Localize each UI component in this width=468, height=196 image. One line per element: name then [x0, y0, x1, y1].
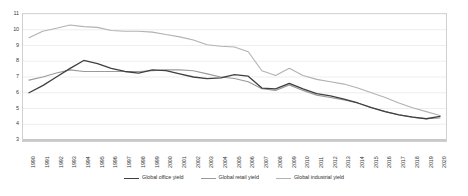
- x-axis-tick-label: 2002: [196, 156, 201, 168]
- x-axis-tick-label: 2019: [429, 156, 434, 168]
- x-axis-tick-label: 1997: [127, 156, 132, 168]
- x-axis-tick-label: 2017: [401, 156, 406, 168]
- x-axis-tick-label: 1999: [155, 156, 160, 168]
- legend-item[interactable]: Global retail yield: [201, 175, 259, 180]
- x-axis-tick-label: 2001: [182, 156, 187, 168]
- x-axis-tick-label: 2009: [292, 156, 297, 168]
- yield-line-chart: 34567891011 1990199119921993199419951996…: [0, 0, 468, 196]
- x-axis-tick-label: 2007: [264, 156, 269, 168]
- x-axis-tick-label: 2003: [209, 156, 214, 168]
- y-axis-tick-label: 10: [3, 27, 19, 32]
- x-axis-tick-label: 2005: [237, 156, 242, 168]
- series-line: [29, 60, 440, 118]
- x-axis-tick-label: 1996: [113, 156, 118, 168]
- x-axis-tick-label: 2020: [442, 156, 447, 168]
- series-lines: [29, 25, 440, 119]
- legend-swatch-icon: [276, 178, 291, 179]
- y-axis-tick-label: 5: [3, 106, 19, 111]
- y-axis-tick-label: 9: [3, 43, 19, 48]
- x-axis-tick-label: 2012: [333, 156, 338, 168]
- legend-item[interactable]: Global office yield: [124, 175, 184, 180]
- x-axis-tick-label: 2018: [415, 156, 420, 168]
- x-axis-tick-label: 2013: [346, 156, 351, 168]
- x-axis-tick-label: 2000: [168, 156, 173, 168]
- y-axis-tick-label: 3: [3, 137, 19, 142]
- y-axis-tick-label: 7: [3, 74, 19, 79]
- legend-label: Global retail yield: [219, 175, 259, 180]
- legend-label: Global industrial yield: [294, 175, 344, 180]
- y-axis-tick-label: 4: [3, 121, 19, 126]
- x-axis-tick-label: 2014: [360, 156, 365, 168]
- x-axis-tick-label: 2004: [223, 156, 228, 168]
- y-axis-tick-label: 8: [3, 58, 19, 63]
- legend-item[interactable]: Global industrial yield: [276, 175, 344, 180]
- x-axis-tick-label: 2008: [278, 156, 283, 168]
- x-axis-tick-label: 1991: [45, 156, 50, 168]
- x-axis-tick-label: 2011: [319, 157, 324, 168]
- x-axis-tick-label: 1998: [141, 156, 146, 168]
- x-axis-tick-label: 1993: [72, 156, 77, 168]
- x-axis-tick-label: 2015: [374, 156, 379, 168]
- y-axis-tick-label: 11: [3, 11, 19, 16]
- legend-label: Global office yield: [142, 175, 184, 180]
- chart-legend: Global office yieldGlobal retail yieldGl…: [0, 172, 468, 184]
- x-axis-tick-label: 2016: [387, 156, 392, 168]
- x-axis-tick-label: 1992: [59, 156, 64, 168]
- x-axis-tick-label: 2006: [250, 156, 255, 168]
- y-axis-tick-label: 6: [3, 90, 19, 95]
- legend-swatch-icon: [124, 178, 139, 179]
- series-line: [29, 25, 440, 116]
- x-axis-tick-label: 1994: [86, 156, 91, 168]
- x-axis-tick-label: 1995: [100, 156, 105, 168]
- gridlines: [23, 14, 446, 140]
- x-axis-tick-label: 1990: [31, 156, 36, 168]
- x-axis-tick-label: 2010: [305, 156, 310, 168]
- legend-swatch-icon: [201, 178, 216, 179]
